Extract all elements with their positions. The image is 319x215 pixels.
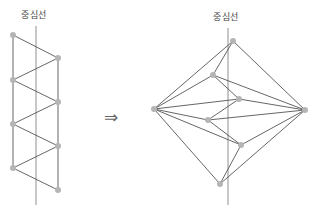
left-zigzag-diagram — [10, 26, 61, 205]
right-edge — [208, 120, 241, 145]
left-node — [10, 77, 16, 83]
left-node — [10, 32, 16, 38]
left-node — [55, 187, 61, 193]
right-edge — [208, 110, 305, 120]
left-node — [10, 165, 16, 171]
right-edge — [213, 75, 305, 110]
right-edge — [213, 75, 239, 99]
right-edge — [154, 41, 233, 109]
right-node — [210, 72, 216, 78]
right-node — [236, 96, 242, 102]
right-edge — [213, 41, 233, 75]
right-node — [151, 106, 157, 112]
left-center-line-label: 중심선 — [21, 8, 47, 21]
left-node — [55, 55, 61, 61]
right-center-line-label: 중심선 — [213, 10, 239, 23]
diagram-canvas — [0, 0, 319, 215]
right-node — [217, 181, 223, 187]
left-node — [55, 143, 61, 149]
right-node — [238, 142, 244, 148]
right-edge — [220, 110, 305, 184]
left-node — [55, 99, 61, 105]
right-folded-diagram — [151, 28, 308, 205]
implies-arrow-icon: ⇒ — [104, 107, 118, 127]
right-edge — [154, 75, 213, 109]
right-node — [302, 107, 308, 113]
right-node — [230, 38, 236, 44]
left-node — [10, 121, 16, 127]
right-edge — [220, 145, 241, 184]
right-node — [205, 117, 211, 123]
